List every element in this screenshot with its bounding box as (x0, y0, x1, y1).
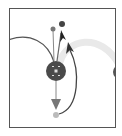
node-top-small[interactable] (51, 27, 56, 32)
node-right-partial[interactable] (113, 65, 122, 79)
node-bottom-small[interactable] (53, 112, 59, 118)
edge-center-topsmall (53, 30, 54, 61)
node-top-dark[interactable] (59, 21, 65, 27)
arrowhead-icon (51, 99, 61, 110)
arrowhead-icon (60, 30, 66, 42)
graph-canvas (0, 0, 122, 136)
edge-left-center (8, 37, 54, 62)
